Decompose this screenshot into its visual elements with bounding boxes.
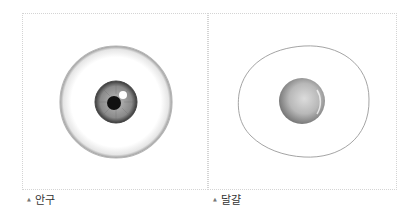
figure-panel-eyeball [22,13,208,190]
caption-text: 안구 [35,191,55,207]
fried-egg-illustration [209,14,398,191]
figure-panel-egg [208,13,397,190]
caption-text: 달걀 [221,191,241,207]
triangle-marker-icon: ▲ [213,196,217,202]
caption-eyeball: ▲ 안구 [27,191,55,207]
caption-egg: ▲ 달걀 [213,191,241,207]
eyeball-illustration [23,14,209,191]
triangle-marker-icon: ▲ [27,196,31,202]
